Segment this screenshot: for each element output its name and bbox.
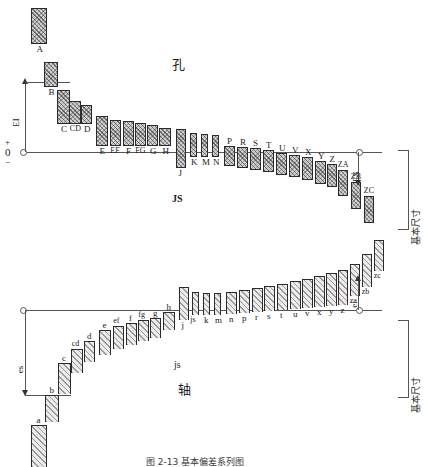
tolerance-zone-u [290,281,301,309]
tolerance-zone-y [326,273,337,306]
tolerance-zone-j [179,287,189,320]
js-shaft-label: js [174,360,181,370]
tolerance-zone-label-u: u [293,310,298,319]
tolerance-zone-label-D: D [84,125,91,134]
tolerance-zone-A [31,8,47,44]
basic-size-label-upper: 基本尺寸 [412,209,421,245]
tolerance-zone-FG [135,123,146,146]
tolerance-zone-c [58,363,71,394]
tolerance-zone-ZC [364,196,374,223]
tolerance-zone-label-t: t [280,311,283,320]
tolerance-zone-label-C: C [61,125,67,134]
tolerance-zone-zc [374,240,384,271]
tolerance-zone-ef [113,326,124,349]
tolerance-zone-label-m: m [215,316,222,325]
basic-size-bracket-upper [408,150,409,230]
tolerance-zone-label-p: p [242,314,247,323]
tolerance-zone-label-E: E [99,147,105,156]
tolerance-zone-R [237,147,248,168]
basic-size-bracket-lower-top [398,320,409,321]
tolerance-zone-fg [138,320,149,341]
tolerance-zone-S [250,148,261,170]
tolerance-zone-z [338,270,348,305]
tolerance-zone-label-M: M [202,158,210,167]
tolerance-zone-label-Y: Y [318,152,325,161]
tolerance-zone-label-H: H [162,147,169,156]
tolerance-zone-label-a: a [36,416,40,425]
shaft-es-label: es [16,366,25,374]
ei-label: EI [12,118,21,127]
tolerance-zone-F [123,121,134,146]
tolerance-zone-D [81,105,92,124]
tolerance-zone-ZA [338,170,348,196]
tolerance-zone-label-d: d [87,332,92,341]
tolerance-zone-s [264,286,275,311]
tolerance-zone-B [44,62,58,87]
tolerance-zone-P [224,146,235,166]
shaft-ei-arrow-head [355,275,361,281]
tolerance-zone-label-b: b [49,386,54,395]
tolerance-zone-f [126,323,137,345]
tolerance-zone-js [192,292,199,315]
tolerance-zone-U [276,153,287,175]
basic-size-bracket-upper-bottom [398,229,409,230]
tolerance-zone-e [99,330,111,355]
tolerance-zone-d [84,341,95,362]
basic-size-label-lower: 基本尺寸 [412,377,421,413]
tolerance-zone-x [314,276,325,307]
tolerance-zone-b [45,395,59,422]
tolerance-zone-Z [327,164,337,187]
tolerance-zone-J [176,129,186,168]
tolerance-zone-label-CD: CD [70,125,81,133]
tolerance-zone-a [31,425,47,467]
tolerance-zone-zb [362,254,372,287]
tolerance-zone-label-c: c [62,354,66,363]
basic-size-bracket-upper-top [398,150,409,151]
tolerance-zone-r [252,288,263,312]
tolerance-zone-label-e: e [102,321,106,330]
tolerance-zone-M [201,134,208,157]
tolerance-zone-label-f: f [129,314,132,323]
tolerance-zone-label-y: y [329,307,334,316]
ei-arrow-line [25,82,26,152]
tolerance-zone-label-B: B [48,88,54,97]
hole-section-label: 孔 [172,58,185,71]
figure-caption: 图 2-13 基本偏差系列图 [146,455,244,467]
tolerance-zone-X [302,157,313,180]
tolerance-zone-label-h: h [166,303,171,312]
tolerance-zone-label-V: V [292,146,299,155]
tolerance-zone-label-K: K [191,158,198,167]
tolerance-zone-E [96,116,108,146]
tolerance-zone-n [226,292,237,314]
tolerance-zone-label-G: G [150,147,157,156]
tolerance-zone-p [239,290,250,313]
tolerance-zone-label-J: J [178,169,182,178]
tolerance-zone-label-s: s [267,312,271,321]
tolerance-zone-T [263,150,274,172]
tolerance-zone-K [190,133,197,157]
tolerance-zone-cd [71,349,83,373]
tolerance-zone-k [203,293,210,315]
tolerance-zone-H [159,128,171,146]
tolerance-zone-label-z: z [340,306,344,315]
tolerance-zone-label-S: S [253,139,258,148]
tolerance-zone-label-js: js [190,316,195,324]
tolerance-zone-t [277,284,288,310]
basic-size-bracket-lower [408,320,409,398]
tolerance-zone-EF [110,120,121,146]
tolerance-zone-label-T: T [266,141,272,150]
tolerance-zone-label-P: P [227,137,232,146]
tolerance-zone-N [212,135,219,157]
tolerance-zone-label-j: j [181,321,184,330]
tolerance-zone-g [150,318,161,338]
tolerance-zone-Y [315,161,326,184]
tolerance-zone-label-FG: FG [135,147,145,155]
tolerance-zone-label-EF: EF [110,147,119,155]
tolerance-zone-label-x: x [317,308,322,317]
es-label: ES [352,171,361,182]
tolerance-zone-CD [69,101,81,124]
tolerance-zone-label-U: U [279,144,286,153]
basic-size-bracket-lower-bottom [398,397,409,398]
tolerance-zone-label-zb: zb [362,288,370,296]
js-hole-label: JS [172,194,183,204]
